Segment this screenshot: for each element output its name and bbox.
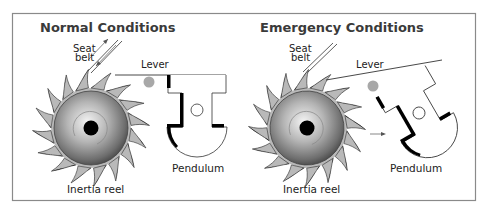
motion-arrow-icon [370,132,386,136]
lever-ball-emergency [368,81,379,92]
seat-belt-label-normal-2: belt [75,52,94,63]
panel-title-normal: Normal Conditions [40,20,176,35]
inertia-reel-normal [33,70,150,187]
panel-emergency: Emergency Conditions Seat belt Lever [245,20,469,195]
lever-label-emergency: Lever [356,59,385,70]
inertia-reel-emergency [245,66,370,191]
pendulum-emergency [374,65,468,169]
reel-label-normal: Inertia reel [67,183,124,195]
reel-label-emergency: Inertia reel [283,183,340,195]
seatbelt-diagram: Normal Conditions Seat belt Lever [0,0,485,215]
pendulum-label-emergency: Pendulum [390,162,442,174]
lever-label-normal: Lever [141,59,170,70]
seat-belt-label-emergency-2: belt [291,52,310,63]
panel-normal: Normal Conditions Seat belt Lever [33,20,227,195]
pendulum-normal [167,75,227,157]
pendulum-label-normal: Pendulum [172,162,224,174]
panel-title-emergency: Emergency Conditions [260,20,424,35]
lever-ball-normal [144,77,155,88]
